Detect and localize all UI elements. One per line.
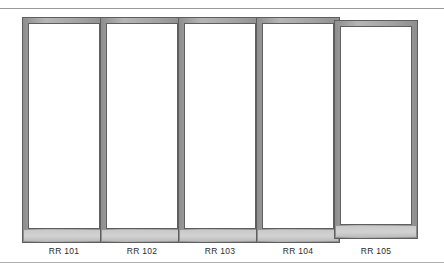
panel-label-4: RR 104 (256, 246, 340, 257)
panel-glazing-4 (262, 23, 334, 229)
panel-unit-4 (256, 17, 340, 243)
panel-label-2: RR 102 (100, 246, 184, 257)
panel-label-1: RR 101 (22, 246, 106, 257)
panel-unit-2 (100, 17, 184, 243)
panel-elevation-figure: RR 101RR 102RR 103RR 104RR 105 (0, 0, 444, 276)
panel-unit-3 (178, 17, 262, 243)
panel-label-5: RR 105 (334, 246, 418, 257)
panel-unit-1 (22, 17, 106, 243)
panel-label-3: RR 103 (178, 246, 262, 257)
elevation-drawing: RR 101RR 102RR 103RR 104RR 105 (0, 8, 444, 262)
panel-glazing-5 (340, 26, 412, 225)
panel-sill-3 (180, 230, 260, 241)
panel-sill-1 (24, 230, 104, 241)
panel-glazing-3 (184, 23, 256, 229)
panel-sill-4 (258, 230, 338, 241)
panel-glazing-1 (28, 23, 100, 229)
panel-unit-5 (334, 20, 418, 239)
panel-glazing-2 (106, 23, 178, 229)
panel-sill-5 (336, 226, 416, 237)
panel-sill-2 (102, 230, 182, 241)
bottom-horizontal-rule (0, 262, 444, 263)
